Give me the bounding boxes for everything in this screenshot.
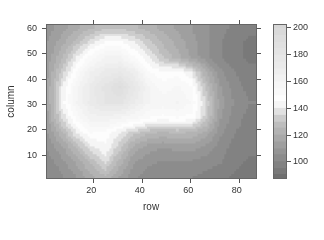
y-tick-left: [42, 53, 46, 54]
x-tick-label: 60: [183, 186, 193, 195]
colorbar-tick-label: 160: [293, 77, 308, 86]
y-tick-label: 30: [27, 100, 37, 109]
y-tick-right: [257, 104, 261, 105]
x-axis-label: row: [143, 201, 159, 212]
y-tick-label: 50: [27, 49, 37, 58]
y-tick-left: [42, 28, 46, 29]
y-tick-label: 40: [27, 75, 37, 84]
x-tick-bottom: [190, 179, 191, 183]
colorbar-tick: [287, 81, 291, 82]
x-tick-bottom: [239, 179, 240, 183]
colorbar-canvas: [274, 25, 286, 178]
x-tick-top: [239, 20, 240, 24]
x-tick-bottom: [93, 179, 94, 183]
y-tick-left: [42, 155, 46, 156]
colorbar-tick: [287, 54, 291, 55]
x-tick-label: 20: [86, 186, 96, 195]
plot-panel: [46, 24, 257, 179]
x-tick-label: 80: [232, 186, 242, 195]
colorbar-tick-label: 200: [293, 23, 308, 32]
colorbar-tick: [287, 135, 291, 136]
y-tick-right: [257, 28, 261, 29]
y-tick-label: 60: [27, 24, 37, 33]
y-tick-left: [42, 79, 46, 80]
colorbar-tick-label: 100: [293, 157, 308, 166]
y-tick-right: [257, 129, 261, 130]
y-tick-left: [42, 129, 46, 130]
x-tick-top: [190, 20, 191, 24]
heatmap-canvas: [47, 25, 256, 178]
x-tick-bottom: [142, 179, 143, 183]
colorbar-tick-label: 120: [293, 131, 308, 140]
colorbar-tick: [287, 27, 291, 28]
x-tick-label: 40: [135, 186, 145, 195]
y-tick-right: [257, 155, 261, 156]
colorbar: [273, 24, 287, 179]
colorbar-tick: [287, 108, 291, 109]
y-tick-label: 20: [27, 125, 37, 134]
y-axis-label: column: [5, 85, 16, 117]
y-tick-right: [257, 53, 261, 54]
colorbar-tick-label: 180: [293, 50, 308, 59]
x-tick-top: [142, 20, 143, 24]
y-tick-right: [257, 79, 261, 80]
y-tick-label: 10: [27, 151, 37, 160]
colorbar-tick: [287, 161, 291, 162]
colorbar-tick-label: 140: [293, 104, 308, 113]
y-tick-left: [42, 104, 46, 105]
x-tick-top: [93, 20, 94, 24]
